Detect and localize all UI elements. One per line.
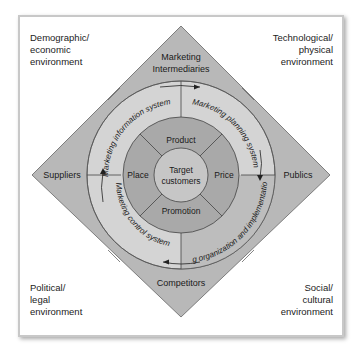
label-publics: Publics bbox=[283, 170, 313, 180]
label-intermediaries-1: Marketing bbox=[161, 52, 201, 62]
label-target-1: Target bbox=[169, 165, 193, 175]
corner-line: Political/ bbox=[30, 282, 82, 294]
corner-technological: Technological/ physical environment bbox=[273, 32, 333, 68]
label-competitors: Competitors bbox=[157, 278, 206, 288]
corner-demographic: Demographic/ economic environment bbox=[30, 32, 89, 68]
label-suppliers: Suppliers bbox=[43, 170, 81, 180]
label-product: Product bbox=[166, 135, 196, 145]
corner-political: Political/ legal environment bbox=[30, 282, 82, 318]
corner-line: environment bbox=[281, 306, 333, 318]
label-intermediaries-2: Intermediaries bbox=[152, 64, 210, 74]
corner-line: physical bbox=[273, 44, 333, 56]
corner-line: environment bbox=[30, 306, 82, 318]
corner-line: Demographic/ bbox=[30, 32, 89, 44]
corner-line: environment bbox=[30, 56, 89, 68]
label-target-2: customers bbox=[161, 176, 200, 186]
corner-social: Social/ cultural environment bbox=[281, 282, 333, 318]
corner-line: Social/ bbox=[281, 282, 333, 294]
corner-line: environment bbox=[273, 56, 333, 68]
corner-line: cultural bbox=[281, 294, 333, 306]
label-promotion: Promotion bbox=[162, 206, 201, 216]
label-place: Place bbox=[127, 170, 149, 180]
corner-line: economic bbox=[30, 44, 89, 56]
label-price: Price bbox=[214, 170, 234, 180]
corner-line: legal bbox=[30, 294, 82, 306]
corner-line: Technological/ bbox=[273, 32, 333, 44]
